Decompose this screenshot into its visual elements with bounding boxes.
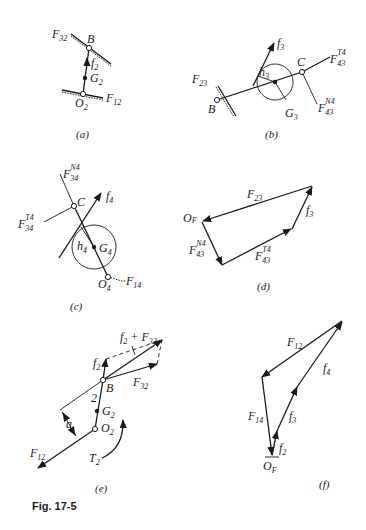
label-OF: OF bbox=[263, 459, 277, 475]
label-f4: f4 bbox=[323, 361, 330, 377]
panel-a: F32 B f2 G2 O2 F12 (a) bbox=[51, 27, 121, 141]
caption-e: (e) bbox=[95, 482, 108, 495]
f2-arrow bbox=[103, 359, 106, 380]
label-B: B bbox=[87, 32, 95, 46]
label-a: a bbox=[66, 417, 72, 431]
label-link-2: 2 bbox=[91, 391, 97, 405]
panel-c: F34N4 f4 C F34T4 h4 G4 O4 F14 (c) bbox=[17, 163, 141, 313]
label-B: B bbox=[106, 381, 114, 395]
label-F34N4: F34N4 bbox=[62, 163, 80, 183]
label-F43N4: F43N4 bbox=[188, 239, 206, 259]
label-C: C bbox=[297, 55, 306, 69]
label-f3: f3 bbox=[306, 203, 313, 219]
label-G2: G2 bbox=[90, 71, 103, 87]
label-F23: F23 bbox=[191, 72, 207, 88]
label-F43T4: F43T4 bbox=[329, 48, 346, 68]
label-F32: F32 bbox=[51, 27, 67, 43]
label-F43N4: F43N4 bbox=[317, 97, 335, 117]
label-f3: f3 bbox=[277, 36, 284, 52]
label-B: B bbox=[208, 102, 216, 116]
label-T2: T2 bbox=[89, 451, 100, 467]
caption-c: (c) bbox=[70, 300, 83, 313]
label-O2: O2 bbox=[75, 96, 88, 112]
pin-B bbox=[86, 45, 91, 50]
caption-f: (f) bbox=[319, 478, 330, 491]
label-f3: f3 bbox=[289, 409, 296, 425]
panel-f: F12 f4 F14 f3 f2 OF (f) bbox=[247, 321, 342, 491]
force-line-F43T4 bbox=[302, 57, 330, 72]
pivot-O2 bbox=[92, 426, 97, 431]
label-G2: G2 bbox=[102, 404, 115, 420]
mass-center-G2 bbox=[83, 76, 87, 80]
label-F43T4: F43T4 bbox=[254, 245, 271, 265]
label-f2: f2 bbox=[93, 356, 100, 372]
label-G3: G3 bbox=[285, 106, 298, 122]
mass-center-G4 bbox=[92, 245, 96, 249]
label-F34T4: F34T4 bbox=[17, 213, 34, 233]
force-line-F43N4 bbox=[302, 72, 317, 104]
leader-sum bbox=[132, 346, 135, 355]
label-F12: F12 bbox=[286, 335, 302, 351]
G3-leader bbox=[275, 82, 286, 100]
label-f2: f2 bbox=[91, 56, 98, 72]
label-F14: F14 bbox=[247, 409, 263, 425]
vector-F12 bbox=[38, 429, 95, 468]
label-F14: F14 bbox=[125, 274, 141, 290]
label-h3: h3 bbox=[259, 65, 269, 81]
label-O2: O2 bbox=[101, 421, 114, 437]
label-G4: G4 bbox=[99, 241, 112, 257]
vector-f2 bbox=[272, 431, 277, 455]
vector-F23 bbox=[203, 186, 312, 221]
force-line-F34T4 bbox=[44, 206, 74, 222]
label-C: C bbox=[77, 195, 86, 209]
caption-b: (b) bbox=[265, 128, 278, 141]
dim-arrow bbox=[72, 430, 75, 435]
label-F12: F12 bbox=[105, 91, 121, 107]
pin-C bbox=[71, 203, 76, 208]
mass-center-G2 bbox=[95, 409, 99, 413]
caption-a: (a) bbox=[76, 128, 89, 141]
pin-C bbox=[299, 69, 304, 74]
link-2 bbox=[83, 48, 89, 94]
label-h4: h4 bbox=[77, 239, 87, 255]
label-f2: f2 bbox=[279, 441, 286, 457]
resultant-f2-plus-F32 bbox=[103, 340, 162, 380]
panel-e: f2 + F32 f2 B F32 2 a G2 O2 F12 T2 (e) bbox=[29, 330, 162, 495]
vector-F32 bbox=[103, 364, 157, 380]
label-F23: F23 bbox=[246, 187, 262, 203]
mass-center-G3 bbox=[273, 80, 277, 84]
mechanism-force-diagrams: F32 B f2 G2 O2 F12 (a) f3 F23 h3 C F43T4… bbox=[0, 0, 366, 530]
vector-f4 bbox=[297, 322, 342, 387]
force-line-F23 bbox=[218, 86, 236, 116]
label-sum: f2 + F32 bbox=[120, 330, 157, 346]
pin-B bbox=[100, 377, 105, 382]
label-F12: F12 bbox=[29, 446, 45, 462]
label-f4: f4 bbox=[106, 189, 113, 205]
figure-caption: Fig. 17-5 bbox=[32, 500, 77, 512]
label-OF: OF bbox=[183, 211, 197, 225]
panel-d: F23 OF f3 F43N4 F43T4 (d) bbox=[183, 186, 313, 293]
panel-b: f3 F23 h3 C F43T4 B G3 F43N4 (b) bbox=[191, 36, 346, 141]
caption-d: (d) bbox=[257, 280, 270, 293]
vector-F14 bbox=[262, 377, 272, 455]
label-F32: F32 bbox=[132, 375, 148, 391]
